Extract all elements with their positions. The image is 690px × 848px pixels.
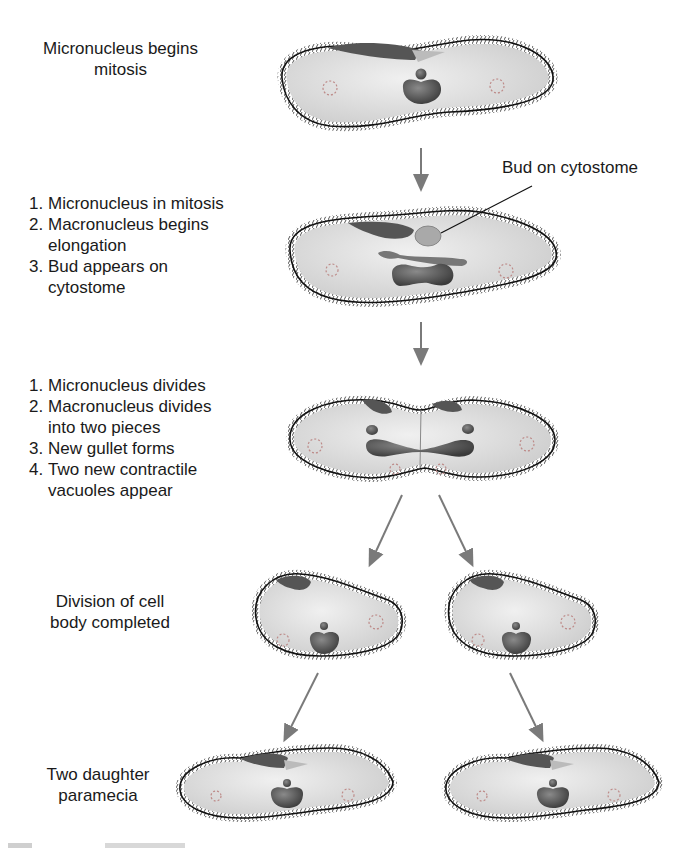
stage1-cell [282,40,553,127]
stage4-right-cell [449,574,596,656]
cropped-caption-fragment [105,843,185,848]
arrow-right-daughter [510,673,540,735]
arrow-left-daughter [287,673,318,735]
arrow-split-right [439,495,470,560]
stage4-left-cell [256,574,403,656]
bud-icon [415,226,441,246]
micronucleus-icon [416,69,427,80]
paramecium-diagram [0,0,690,848]
stage5-left-paramecium [180,748,393,818]
stage3-dividing-cell [290,400,555,479]
arrow-split-left [372,495,402,560]
stage2-cell [290,186,556,302]
cropped-caption-fragment [8,843,32,848]
stage5-right-paramecium [446,748,659,818]
